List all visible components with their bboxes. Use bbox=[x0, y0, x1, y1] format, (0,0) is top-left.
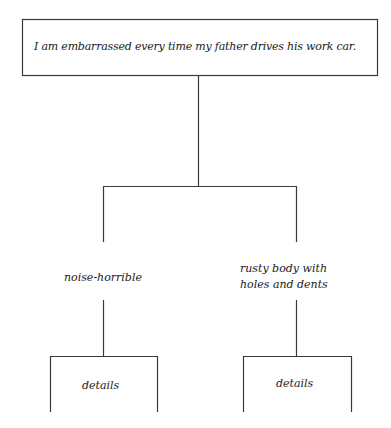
right-branch-label: rusty body with holes and dents bbox=[240, 261, 360, 293]
left-branch-label: noise-horrible bbox=[64, 271, 142, 284]
right-branch-label-line2: holes and dents bbox=[240, 277, 360, 293]
tree-diagram: I am embarrassed every time my father dr… bbox=[0, 0, 391, 428]
root-statement: I am embarrassed every time my father dr… bbox=[34, 40, 356, 53]
right-branch-label-line1: rusty body with bbox=[240, 261, 360, 277]
right-detail-text: details bbox=[276, 377, 313, 390]
diagram-lines bbox=[0, 0, 391, 428]
left-detail-text: details bbox=[82, 379, 119, 392]
